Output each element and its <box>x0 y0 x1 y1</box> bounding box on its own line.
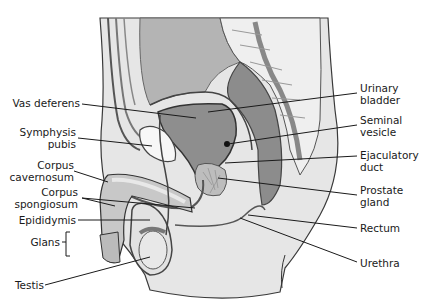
label-prostate-gland: Prostate gland <box>360 184 403 208</box>
label-text: Vas deferens <box>10 97 80 109</box>
label-text: spongiosum <box>4 198 78 210</box>
label-urinary-bladder: Urinary bladder <box>360 82 400 106</box>
label-text: Urethra <box>360 257 400 269</box>
label-vas-deferens: Vas deferens <box>10 97 80 109</box>
label-text: Symphysis <box>10 126 76 138</box>
glans-shape <box>100 232 120 263</box>
label-text: Glans <box>10 236 60 248</box>
label-text: Epididymis <box>4 214 76 226</box>
label-epididymis: Epididymis <box>4 214 76 226</box>
label-corpus-cavernosum: Corpus cavernosum <box>4 159 74 183</box>
testis-shape <box>139 231 167 269</box>
label-text: bladder <box>360 94 400 106</box>
label-text: Corpus <box>4 159 74 171</box>
label-text: Rectum <box>360 222 400 234</box>
label-text: pubis <box>10 138 76 150</box>
label-text: vesicle <box>360 126 402 138</box>
label-text: duct <box>360 161 419 173</box>
label-seminal-vesicle: Seminal vesicle <box>360 114 402 138</box>
label-text: gland <box>360 196 403 208</box>
label-text: Seminal <box>360 114 402 126</box>
label-glans: Glans <box>10 236 60 248</box>
label-text: cavernosum <box>4 171 74 183</box>
label-text: Prostate <box>360 184 403 196</box>
label-urethra: Urethra <box>360 257 400 269</box>
label-ejaculatory-duct: Ejaculatory duct <box>360 149 419 173</box>
label-symphysis-pubis: Symphysis pubis <box>10 126 76 150</box>
label-rectum: Rectum <box>360 222 400 234</box>
label-text: Ejaculatory <box>360 149 419 161</box>
label-text: Testis <box>4 279 44 291</box>
label-corpus-spongiosum: Corpus spongiosum <box>4 186 78 210</box>
label-testis: Testis <box>4 279 44 291</box>
label-text: Corpus <box>4 186 78 198</box>
label-text: Urinary <box>360 82 400 94</box>
prostate-shape <box>195 163 227 195</box>
